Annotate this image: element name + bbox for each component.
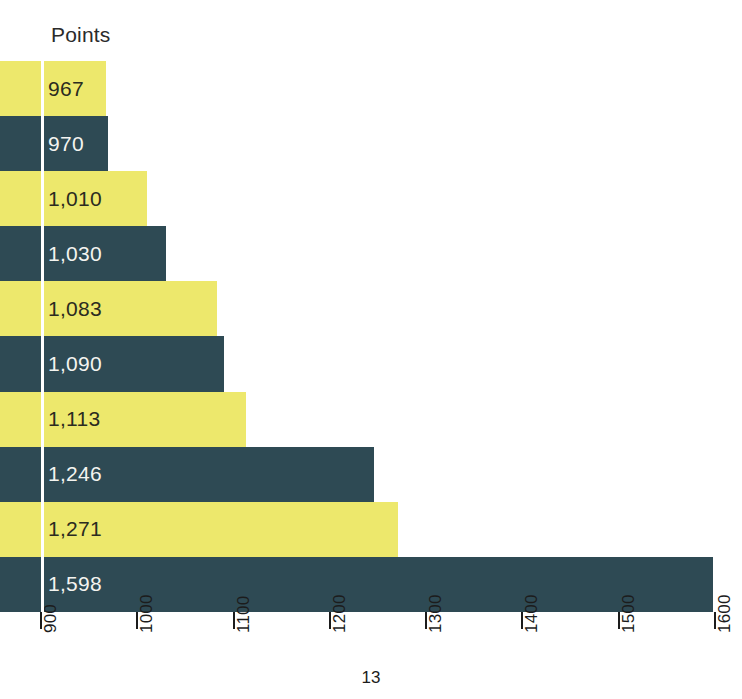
bar-value-label: 1,598 — [48, 557, 102, 612]
tick-label: 1500 — [619, 594, 639, 633]
bar-row[interactable]: 1,083 — [0, 281, 742, 336]
bar-value-label: 1,113 — [48, 392, 101, 447]
bar-row[interactable]: 1,271 — [0, 502, 742, 557]
chart-page: Points 9679701,0101,0301,0831,0901,1131,… — [0, 0, 742, 699]
bar-value-label: 1,083 — [48, 281, 102, 336]
bar-1090[interactable] — [0, 336, 224, 391]
tick-label: 1000 — [137, 594, 157, 633]
baseline-rule — [41, 61, 44, 612]
bar-row[interactable]: 1,246 — [0, 447, 742, 502]
tick-label: 1600 — [715, 594, 735, 633]
bar-value-label: 1,246 — [48, 447, 102, 502]
bar-1083[interactable] — [0, 281, 217, 336]
tick-label: 1200 — [330, 594, 350, 633]
bar-row[interactable]: 967 — [0, 61, 742, 116]
bar-1598[interactable] — [0, 557, 713, 612]
bar-chart-plot-area: 9679701,0101,0301,0831,0901,1131,2461,27… — [0, 61, 742, 612]
page-number: 13 — [0, 668, 742, 688]
tick-label: 1400 — [522, 594, 542, 633]
bar-value-label: 1,010 — [48, 171, 102, 226]
bar-row[interactable]: 1,090 — [0, 336, 742, 391]
bar-row[interactable]: 1,113 — [0, 392, 742, 447]
bar-value-label: 1,030 — [48, 226, 102, 281]
tick-label: 1300 — [426, 594, 446, 633]
bar-row[interactable]: 1,030 — [0, 226, 742, 281]
bar-1113[interactable] — [0, 392, 246, 447]
bar-row[interactable]: 970 — [0, 116, 742, 171]
bar-value-label: 967 — [48, 61, 84, 116]
bar-value-label: 970 — [48, 116, 84, 171]
bar-value-label: 1,090 — [48, 336, 102, 391]
bar-row[interactable]: 1,010 — [0, 171, 742, 226]
points-column-header: Points — [51, 24, 111, 45]
tick-label: 1100 — [234, 596, 254, 633]
bar-value-label: 1,271 — [48, 502, 102, 557]
